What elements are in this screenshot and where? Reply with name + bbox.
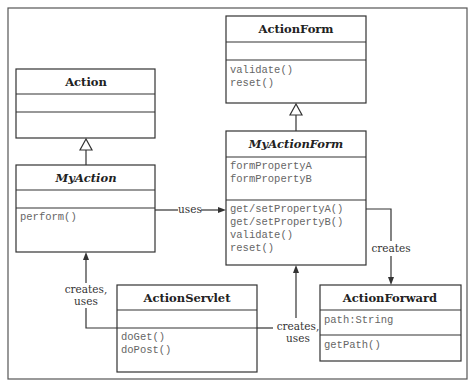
class-name: ActionForward — [342, 291, 437, 305]
operation: validate() — [230, 64, 293, 76]
operation: validate() — [230, 229, 293, 241]
class-name: MyAction — [54, 171, 116, 185]
relation-label: uses — [286, 332, 310, 344]
class-myaction: MyAction perform() — [16, 165, 155, 252]
class-name: ActionServlet — [143, 291, 232, 305]
uml-diagram: Action MyAction perform() ActionForm val… — [0, 0, 473, 387]
operation: get/setPropertyB() — [230, 216, 343, 228]
class-name: ActionForm — [257, 22, 333, 36]
operation: reset() — [230, 77, 274, 89]
class-actionforward: ActionForward path:String getPath() — [320, 285, 461, 361]
operation: reset() — [230, 242, 274, 254]
class-name: Action — [64, 75, 107, 89]
relation-label: creates, — [65, 283, 108, 295]
class-name: MyActionForm — [248, 137, 343, 151]
relation-label: creates — [371, 242, 410, 254]
operation: doPost() — [121, 344, 171, 356]
attribute: path:String — [324, 314, 393, 326]
class-actionform: ActionForm validate() reset() — [226, 16, 366, 103]
operation: get/setPropertyA() — [230, 203, 343, 215]
relation-label: uses — [178, 203, 202, 215]
operation: doGet() — [121, 331, 165, 343]
operation: perform() — [20, 211, 77, 223]
relation-label: uses — [74, 295, 98, 307]
relation-label: creates, — [277, 320, 320, 332]
class-action: Action — [16, 69, 155, 138]
operation: getPath() — [324, 339, 381, 351]
attribute: formPropertyA — [230, 160, 313, 172]
class-myactionform: MyActionForm formPropertyA formPropertyB… — [226, 131, 366, 265]
attribute: formPropertyB — [230, 173, 312, 185]
